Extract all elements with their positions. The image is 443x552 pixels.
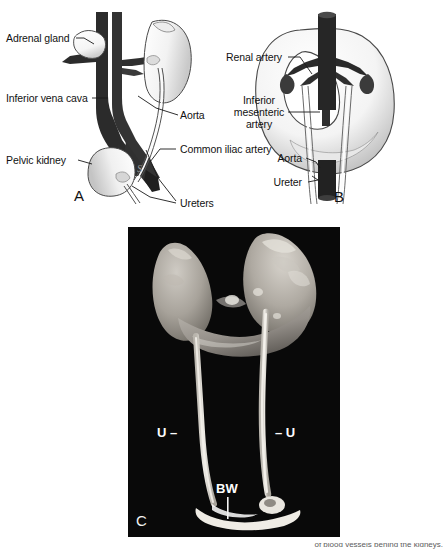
figure-caption-fragment: of blood vessels behind the kidneys. bbox=[0, 543, 443, 552]
panel-c-photograph bbox=[0, 0, 443, 552]
fat-highlight bbox=[273, 313, 281, 319]
panel-letter-c: C bbox=[136, 512, 147, 529]
label-bladder-wall-marker: BW bbox=[216, 481, 238, 496]
vessel-stump-highlight-2 bbox=[253, 288, 263, 296]
label-ureter-left-marker: U – bbox=[157, 425, 177, 440]
ureteral-orifice bbox=[264, 499, 276, 507]
figure-kidney-anomalies: S bbox=[0, 0, 443, 552]
figure-caption-text: of blood vessels behind the kidneys. bbox=[314, 543, 443, 549]
vessel-stump-highlight bbox=[225, 295, 239, 305]
bladder-wall-leader-line bbox=[227, 497, 229, 519]
label-ureter-right-marker: – U bbox=[275, 425, 295, 440]
